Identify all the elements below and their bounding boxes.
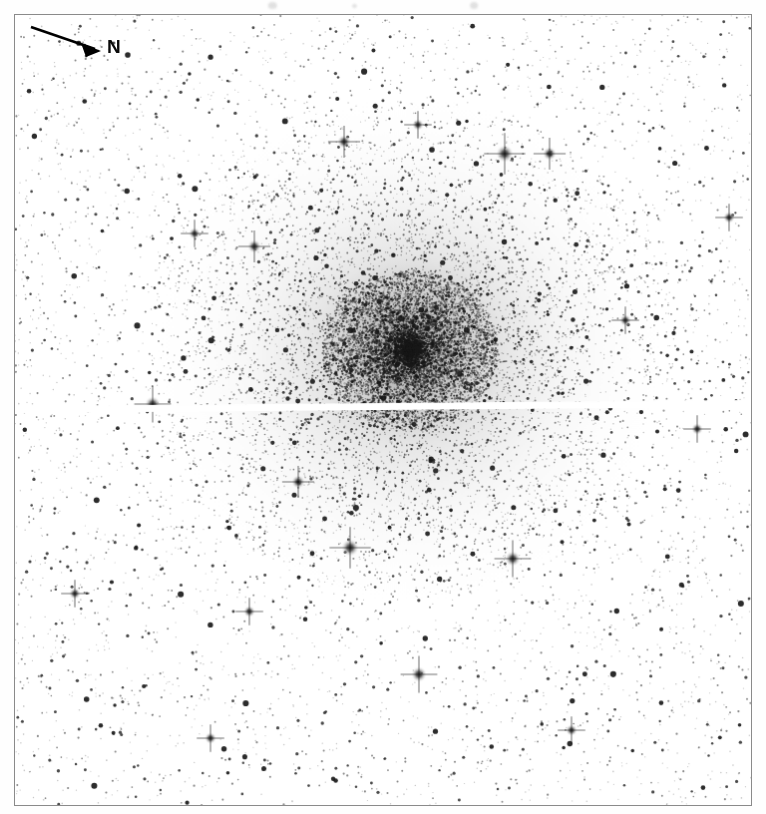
- scan-smudge: [470, 2, 478, 9]
- figure-page: N: [0, 0, 766, 814]
- scan-smudge: [268, 2, 277, 9]
- scan-smudge: [352, 4, 357, 8]
- image-plate-frame: N: [14, 14, 752, 806]
- north-direction-label: N: [107, 37, 121, 56]
- star-field-canvas: [15, 15, 751, 805]
- scan-artifact-layer: [0, 0, 766, 14]
- north-arrow-compass: N: [23, 17, 133, 67]
